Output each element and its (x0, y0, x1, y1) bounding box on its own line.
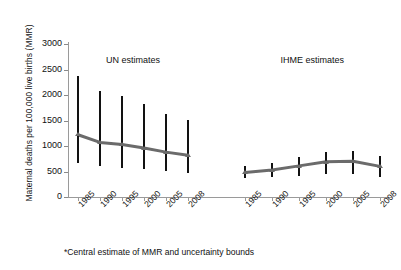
panel-title-ihme: IHME estimates (281, 55, 345, 65)
x-tick-label: 1995 (297, 188, 318, 209)
y-tick-label: 1500 (28, 116, 62, 125)
error-bar (77, 76, 79, 163)
x-tick-label: 1990 (98, 188, 119, 209)
data-point-marker (377, 164, 383, 168)
error-bar (99, 91, 101, 166)
x-tick-label: 2008 (186, 188, 207, 209)
x-tick-label: 2005 (351, 188, 372, 209)
data-point-marker (242, 170, 248, 174)
y-tick-mark (64, 95, 68, 96)
x-tick-label: 1985 (243, 188, 264, 209)
data-point-marker (269, 168, 275, 172)
data-point-marker (350, 159, 356, 163)
data-point-marker (141, 146, 147, 150)
error-bar (143, 104, 145, 169)
error-bar (121, 96, 123, 168)
x-tick-label: 2008 (378, 188, 399, 209)
y-tick-mark (64, 197, 68, 198)
x-tick-label: 1985 (76, 188, 97, 209)
y-tick-label: 2000 (28, 90, 62, 99)
y-tick-mark (64, 121, 68, 122)
data-point-marker (296, 164, 302, 168)
y-tick-label: 3000 (28, 39, 62, 48)
x-tick-label: 2000 (142, 188, 163, 209)
data-point-marker (163, 150, 169, 154)
y-tick-mark (64, 146, 68, 147)
trend-line (245, 161, 380, 172)
y-tick-label: 1000 (28, 141, 62, 150)
chart-figure: Maternal deaths per 100,000 live births … (0, 0, 401, 270)
trend-line (78, 135, 188, 155)
y-tick-label: 500 (28, 167, 62, 176)
chart-footnote: *Central estimate of MMR and uncertainty… (64, 247, 254, 257)
error-bar (165, 114, 167, 170)
y-tick-mark (64, 70, 68, 71)
x-tick-label: 2000 (324, 188, 345, 209)
x-tick-label: 1990 (270, 188, 291, 209)
y-axis-line (68, 42, 69, 198)
y-tick-label: 0 (28, 192, 62, 201)
panel-title-un: UN estimates (106, 55, 160, 65)
y-tick-label: 2500 (28, 65, 62, 74)
data-point-marker (323, 160, 329, 164)
x-tick-label: 2005 (164, 188, 185, 209)
data-point-marker (119, 142, 125, 146)
y-tick-mark (64, 44, 68, 45)
data-point-marker (75, 132, 81, 136)
y-tick-mark (64, 172, 68, 173)
data-point-marker (97, 140, 103, 144)
data-point-marker (185, 153, 191, 157)
error-bar (187, 120, 189, 173)
x-tick-label: 1995 (120, 188, 141, 209)
